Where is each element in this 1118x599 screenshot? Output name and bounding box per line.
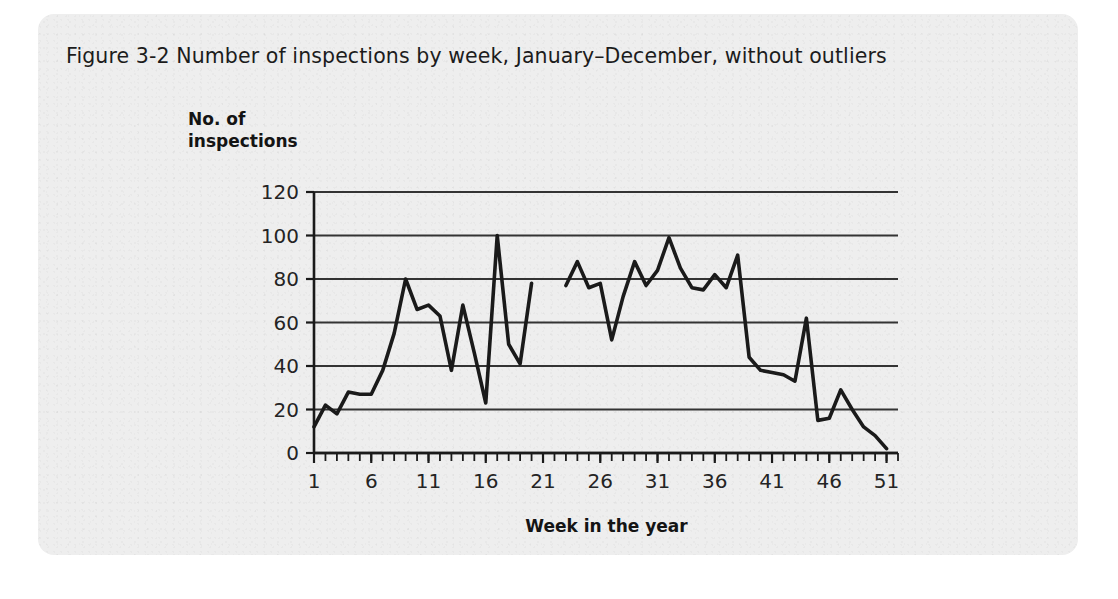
y-axis-tick-label: 120: [261, 180, 299, 204]
x-axis-tick-label: 1: [308, 469, 321, 493]
x-axis-tick-label: 11: [416, 469, 441, 493]
x-axis-tick-label: 51: [874, 469, 899, 493]
y-axis-tick-labels: 020406080100120: [261, 180, 299, 465]
y-axis-tick-label: 20: [274, 398, 299, 422]
x-axis-tick-label: 41: [759, 469, 784, 493]
y-axis-tick-label: 0: [286, 441, 299, 465]
y-axis-tick-label: 60: [274, 311, 299, 335]
x-axis-tick-label: 46: [817, 469, 842, 493]
y-axis-tick-label: 40: [274, 354, 299, 378]
y-axis-tick-label: 80: [274, 267, 299, 291]
x-axis-title: Week in the year: [314, 516, 899, 536]
x-axis-tick-label: 16: [473, 469, 498, 493]
line-chart: 020406080100120 16111621263136414651: [0, 0, 1118, 599]
figure-page: Figure 3-2 Number of inspections by week…: [0, 0, 1118, 599]
y-axis-tick-label: 100: [261, 224, 299, 248]
x-axis-major-ticks: [314, 453, 887, 463]
gridlines: [314, 192, 898, 453]
data-line: [566, 238, 887, 449]
data-line: [314, 236, 532, 427]
data-series-lines: [314, 236, 887, 449]
x-axis-tick-label: 31: [645, 469, 670, 493]
x-axis-tick-label: 26: [588, 469, 613, 493]
x-axis-tick-label: 6: [365, 469, 378, 493]
x-axis-tick-labels: 16111621263136414651: [308, 469, 900, 493]
x-axis-tick-label: 36: [702, 469, 727, 493]
x-axis-tick-label: 21: [530, 469, 555, 493]
